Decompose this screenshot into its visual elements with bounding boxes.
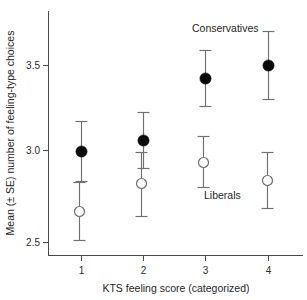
x-tick-label-4: 4	[266, 265, 272, 276]
y-axis-title: Mean (± SE) number of feeling-type choic…	[4, 31, 16, 236]
data-point-conservatives-4	[263, 60, 274, 71]
y-tick-label-2.5: 2.5	[26, 237, 40, 248]
data-point-conservatives-1	[76, 146, 87, 157]
scatter-chart: 3.5 3.0 2.5 1 2 3 4 KTS feeling score (c…	[0, 0, 307, 300]
y-tick-label-3.5: 3.5	[26, 60, 40, 71]
annotation-liberals: Liberals	[204, 189, 241, 201]
x-tick-label-3: 3	[203, 265, 209, 276]
data-point-conservatives-2	[138, 135, 149, 146]
data-point-liberals-4	[263, 176, 273, 186]
series-liberals	[74, 137, 274, 241]
data-point-conservatives-3	[200, 73, 211, 84]
x-tick-group: 1 2 3 4	[79, 256, 272, 277]
x-tick-label-1: 1	[79, 265, 85, 276]
y-tick-label-3.0: 3.0	[26, 145, 40, 156]
y-tick-group: 3.5 3.0 2.5	[26, 60, 48, 248]
axis-group	[49, 11, 304, 256]
figure-container: 3.5 3.0 2.5 1 2 3 4 KTS feeling score (c…	[0, 0, 307, 300]
data-point-liberals-3	[199, 158, 209, 168]
data-point-liberals-1	[75, 207, 85, 217]
series-conservatives	[76, 32, 275, 182]
annotation-conservatives: Conservatives	[192, 22, 259, 34]
x-axis-title: KTS feeling score (categorized)	[102, 282, 249, 294]
x-tick-label-2: 2	[141, 265, 147, 276]
data-point-liberals-2	[137, 179, 147, 189]
